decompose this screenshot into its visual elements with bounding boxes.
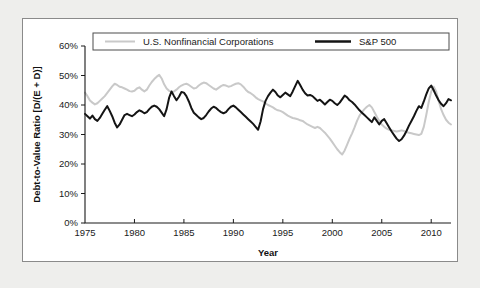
y-tick-label: 10%: [59, 188, 79, 199]
chart-legend: U.S. Nonfinancial Corporations S&P 500: [93, 33, 449, 50]
y-tick-label: 30%: [59, 129, 79, 140]
x-tick-label: 1995: [272, 227, 293, 238]
x-tick-label: 1990: [223, 227, 244, 238]
chart-area: 0%10%20%30%40%50%60% 1975198019851990199…: [23, 19, 459, 263]
x-axis-title: Year: [258, 247, 278, 258]
figure-panel: 0%10%20%30%40%50%60% 1975198019851990199…: [22, 18, 458, 262]
x-axis-ticks: 19751980198519901995200020052010: [74, 219, 441, 238]
axis-lines: [85, 46, 451, 223]
x-tick-label: 1980: [124, 227, 145, 238]
x-tick-label: 2010: [421, 227, 442, 238]
series-line-nonfinancial: [85, 75, 451, 155]
debt-to-value-ratio-line-chart: 0%10%20%30%40%50%60% 1975198019851990199…: [23, 19, 459, 263]
series-layer: [85, 75, 451, 155]
y-tick-label: 60%: [59, 40, 79, 51]
y-axis-ticks: 0%10%20%30%40%50%60%: [59, 40, 85, 228]
legend-label-sp500: S&P 500: [359, 36, 396, 47]
legend-label-nonfinancial: U.S. Nonfinancial Corporations: [143, 36, 274, 47]
x-tick-label: 1975: [74, 227, 95, 238]
y-tick-label: 40%: [59, 99, 79, 110]
y-tick-label: 20%: [59, 158, 79, 169]
x-tick-label: 2005: [371, 227, 392, 238]
axes-layer: 0%10%20%30%40%50%60% 1975198019851990199…: [59, 40, 451, 238]
x-tick-label: 2000: [322, 227, 343, 238]
y-axis-title: Debt-to-Value Ratio [D/(E + D)]: [31, 66, 42, 202]
y-tick-label: 50%: [59, 70, 79, 81]
x-tick-label: 1985: [173, 227, 194, 238]
